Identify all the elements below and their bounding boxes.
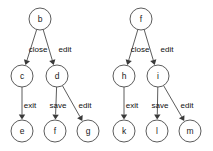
node-label: d	[55, 71, 60, 81]
graph-node[interactable]: d	[46, 65, 68, 87]
edge-label: close	[29, 45, 48, 54]
node-label: b	[38, 14, 43, 24]
node-label: g	[86, 126, 91, 136]
edge-arrowhead	[19, 115, 25, 120]
graph-node[interactable]: f	[44, 120, 66, 142]
edge-label: edit	[79, 101, 93, 110]
node-label: l	[156, 126, 158, 136]
graph-node[interactable]: i	[147, 65, 169, 87]
graph-node[interactable]: g	[77, 120, 99, 142]
node-label: i	[157, 71, 159, 81]
graph-node[interactable]: m	[179, 120, 201, 142]
edge-label: save	[152, 101, 169, 110]
node-label: m	[186, 126, 193, 136]
edge-arrowhead	[154, 114, 160, 119]
graph-node[interactable]: h	[113, 65, 135, 87]
nodes-layer: bcdefgfhiklm	[11, 8, 201, 142]
node-label: h	[122, 71, 127, 81]
edge-arrowhead	[52, 114, 58, 119]
graph-node[interactable]: l	[146, 120, 168, 142]
edge-label: save	[50, 101, 67, 110]
graph-node[interactable]: b	[29, 8, 51, 30]
graph-canvas: bcdefgfhiklm closeeditexitsaveeditclosee…	[0, 0, 213, 151]
graph-node[interactable]: f	[130, 8, 152, 30]
edge-label: edit	[181, 101, 195, 110]
graph-node[interactable]: e	[11, 120, 33, 142]
edge-label: close	[131, 45, 150, 54]
node-label: e	[20, 126, 25, 136]
graph-node[interactable]: k	[113, 120, 135, 142]
edge-label: edit	[161, 45, 175, 54]
graph-node[interactable]: c	[11, 65, 33, 87]
edge-label: exit	[24, 101, 37, 110]
edge-arrowhead	[121, 115, 127, 120]
edge-label: exit	[126, 101, 139, 110]
edge-label: edit	[59, 45, 73, 54]
